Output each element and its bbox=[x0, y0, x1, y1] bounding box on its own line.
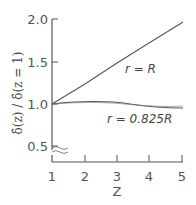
x-tick-label: 1 bbox=[48, 169, 56, 184]
x-tick-label: 5 bbox=[178, 169, 186, 184]
annotation-r-0825R: r = 0.825R bbox=[107, 112, 172, 126]
y-tick-label: 0.5 bbox=[27, 139, 48, 154]
x-axis-label: Z bbox=[113, 184, 122, 199]
x-ticks bbox=[85, 155, 182, 162]
y-tick-label: 1.5 bbox=[27, 55, 48, 70]
y-tick-label: 2.0 bbox=[27, 12, 48, 27]
x-tick-label: 4 bbox=[145, 169, 153, 184]
axis-break-icon bbox=[52, 147, 68, 154]
x-tick-label: 2 bbox=[81, 169, 89, 184]
y-axis-label: δ̇(z) / δ̇(z = 1) bbox=[11, 52, 25, 135]
series-r-equals-R bbox=[52, 22, 183, 104]
y-tick-label: 1.0 bbox=[27, 97, 48, 112]
chart: 2.0 1.5 1.0 0.5 1 2 3 4 5 Z δ̇(z) / δ̇(z… bbox=[0, 0, 196, 205]
series-r-0825R-upper bbox=[52, 103, 183, 107]
y-ticks bbox=[52, 19, 58, 146]
x-tick-label: 3 bbox=[113, 169, 121, 184]
annotation-r-equals-R: r = R bbox=[125, 62, 156, 76]
